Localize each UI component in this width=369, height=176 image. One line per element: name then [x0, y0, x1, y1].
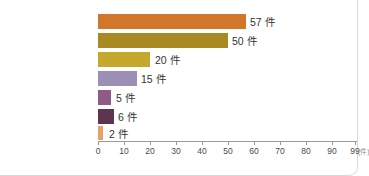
value-label: 5 件 — [116, 90, 135, 106]
bar-segment[interactable] — [98, 71, 137, 86]
value-label: 6 件 — [118, 109, 137, 125]
x-axis-tick — [124, 141, 125, 145]
value-label: 15 件 — [141, 71, 166, 87]
x-tick-label: 20 — [137, 146, 163, 156]
bar-segment[interactable] — [98, 90, 111, 105]
x-axis-tick — [254, 141, 255, 145]
bar-segment[interactable] — [98, 109, 114, 124]
x-axis-tick — [176, 141, 177, 145]
x-tick-label: 80 — [293, 146, 319, 156]
value-label: 50 件 — [232, 33, 257, 49]
bar-segment[interactable] — [98, 33, 228, 48]
x-axis-tick — [98, 141, 99, 145]
x-tick-label: 10 — [111, 146, 137, 156]
value-label: 57 件 — [250, 14, 275, 30]
x-axis-tick — [280, 141, 281, 145]
x-tick-label: 0 — [85, 146, 111, 156]
x-tick-label: 50 — [215, 146, 241, 156]
x-axis-tick — [150, 141, 151, 145]
x-tick-label: 60 — [241, 146, 267, 156]
x-axis-tick — [202, 141, 203, 145]
x-axis-unit-label: (件) — [358, 148, 369, 156]
bar-segment[interactable] — [98, 52, 150, 67]
x-tick-label: 40 — [189, 146, 215, 156]
bar-segment[interactable] — [98, 126, 103, 140]
value-label: 2 件 — [109, 126, 128, 142]
x-tick-label: 30 — [163, 146, 189, 156]
x-tick-label: 70 — [267, 146, 293, 156]
x-axis-tick — [332, 141, 333, 145]
x-axis-tick — [306, 141, 307, 145]
x-axis-tick — [355, 141, 356, 145]
bar-segment[interactable] — [98, 14, 246, 29]
x-axis-tick — [228, 141, 229, 145]
value-label: 20 件 — [155, 52, 180, 68]
horizontal-bar-chart: カウフマン療法 57 件 OC( 低容量ピル) 50 件 LEP( 低容量ピル)… — [0, 0, 369, 170]
